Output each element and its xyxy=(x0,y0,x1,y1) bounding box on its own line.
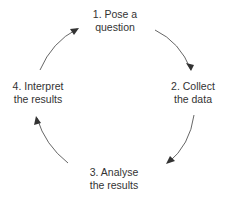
step-label-line2: the results xyxy=(90,179,138,192)
step-collect-data: 2. Collect the data xyxy=(171,80,215,105)
step-analyse-results: 3. Analyse the results xyxy=(90,166,138,191)
arrowhead-icon xyxy=(186,63,194,71)
arrow-4-to-1 xyxy=(40,29,77,70)
arrow-2-to-3 xyxy=(168,115,194,163)
step-label-line1: 4. Interpret xyxy=(13,80,64,93)
arrowhead-icon xyxy=(34,116,41,125)
arrowhead-icon xyxy=(70,28,79,35)
arrow-3-to-4 xyxy=(37,118,68,163)
step-label-line1: 3. Analyse xyxy=(90,166,138,179)
arrowhead-icon xyxy=(166,156,175,164)
step-label-line1: 2. Collect xyxy=(171,80,215,93)
step-label-line2: question xyxy=(93,21,137,34)
step-label-line1: 1. Pose a xyxy=(93,8,137,21)
step-label-line2: the results xyxy=(13,93,64,106)
step-label-line2: the data xyxy=(171,93,215,106)
arrow-1-to-2 xyxy=(155,30,191,70)
cycle-diagram: 1. Pose a question 2. Collect the data 3… xyxy=(0,0,227,197)
step-interpret-results: 4. Interpret the results xyxy=(13,80,64,105)
step-pose-question: 1. Pose a question xyxy=(93,8,137,33)
